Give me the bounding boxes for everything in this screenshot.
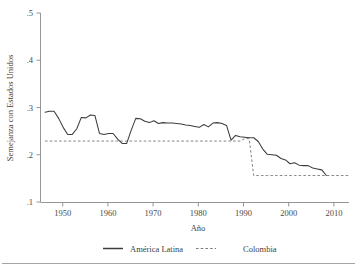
- y-tick-label-1: .1: [27, 197, 33, 207]
- figure-container: .5 .4 .3 .2 .1 Semejanza con Estados Uni…: [0, 0, 357, 270]
- y-tick-label-2: .2: [27, 150, 33, 160]
- y-tick-label-5: .5: [27, 8, 33, 18]
- x-tick-marks: [63, 203, 334, 207]
- series-line-america-latina: [45, 111, 326, 175]
- x-tick-label-1970: 1970: [145, 208, 162, 218]
- y-axis-title: Semejanza con Estados Unidos: [5, 55, 15, 161]
- y-tick-label-3: .3: [27, 103, 33, 113]
- x-tick-label-1960: 1960: [99, 208, 116, 218]
- x-tick-label-2010: 2010: [325, 208, 342, 218]
- y-tick-marks: [37, 13, 41, 202]
- x-tick-label-1950: 1950: [54, 208, 71, 218]
- x-tick-label-2000: 2000: [280, 208, 297, 218]
- legend-label-america-latina: América Latina: [130, 244, 183, 254]
- x-tick-label-1980: 1980: [190, 208, 207, 218]
- series-line-colombia: [45, 139, 349, 176]
- legend-label-colombia: Colombia: [243, 244, 277, 254]
- chart-legend: América Latina Colombia: [103, 244, 277, 254]
- y-tick-label-4: .4: [27, 55, 34, 65]
- x-axis-title: Año: [191, 223, 206, 233]
- line-chart: .5 .4 .3 .2 .1 Semejanza con Estados Uni…: [0, 0, 357, 270]
- x-tick-label-1990: 1990: [235, 208, 252, 218]
